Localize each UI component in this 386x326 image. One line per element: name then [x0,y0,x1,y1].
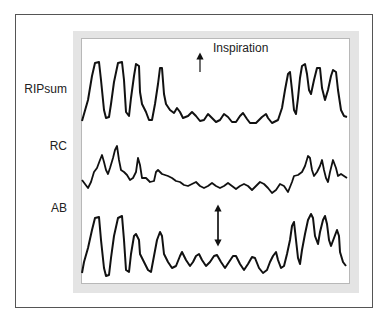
ripsum-trace [82,62,347,123]
ab-trace [82,214,346,276]
respiratory-traces [0,0,386,326]
rc-trace [82,146,347,193]
